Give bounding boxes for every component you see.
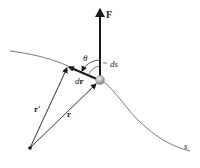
path-label: s: [184, 141, 188, 151]
origin-point: [28, 146, 32, 150]
particle: [96, 76, 105, 85]
displacement-vector-arrow: [69, 67, 99, 80]
force-label: F: [106, 9, 112, 20]
angle-label: θ: [83, 53, 88, 63]
position-vector-arrow: [30, 84, 96, 148]
position-label: r: [67, 109, 71, 119]
ds-arc: [89, 66, 100, 74]
arc-length-label: ds: [110, 59, 119, 69]
position-prime-label: r': [34, 104, 41, 114]
work-diagram: F θ ds dr r' r s: [0, 0, 200, 168]
displacement-label: dr: [75, 76, 84, 86]
